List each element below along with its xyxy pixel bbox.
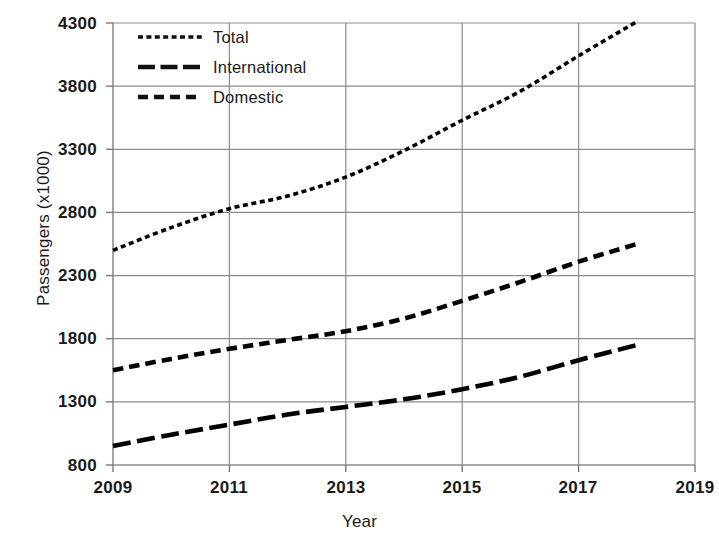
legend-swatch-international [136,60,204,74]
legend-label-international: International [213,58,306,77]
legend-label-total: Total [213,28,249,47]
legend-swatch-domestic [136,90,204,104]
series-line-international [113,345,637,446]
legend-label-domestic: Domestic [213,88,283,107]
chart-figure: Passengers (x1000) 4300 3800 3300 2800 2… [0,0,719,541]
legend-item-total: Total [136,22,306,52]
legend-item-domestic: Domestic [136,82,306,112]
series-line-domestic [113,244,637,370]
legend-item-international: International [136,52,306,82]
legend: Total International Domestic [136,22,306,112]
plot-area [0,0,719,541]
legend-swatch-total [136,30,204,44]
